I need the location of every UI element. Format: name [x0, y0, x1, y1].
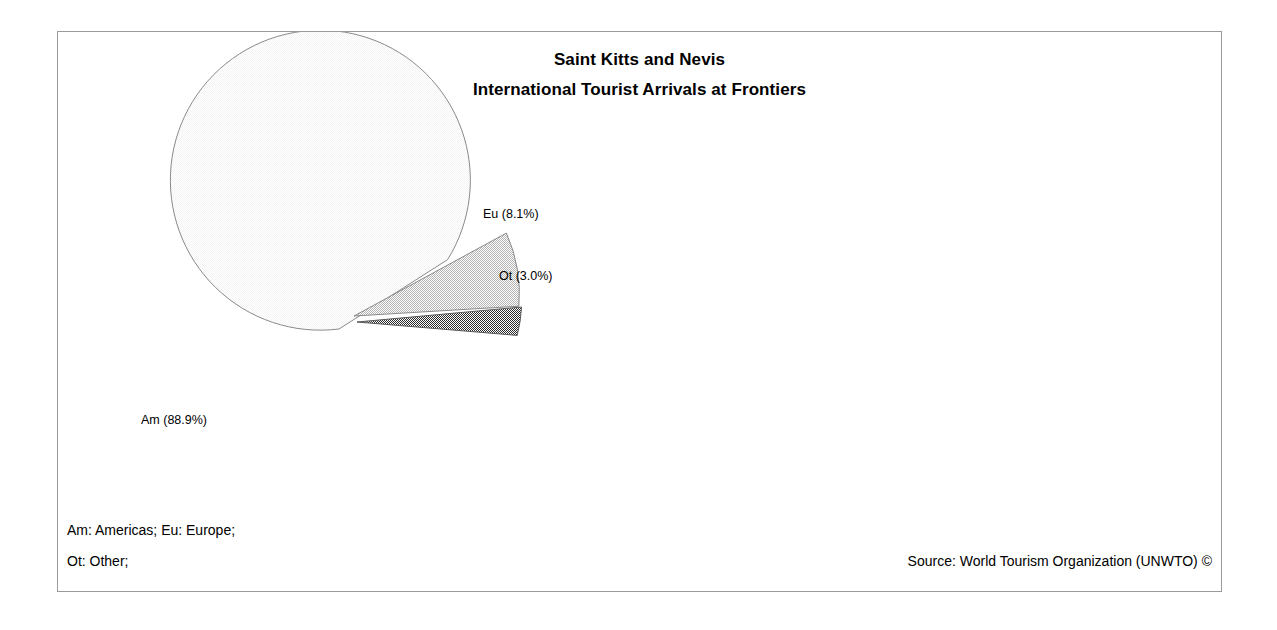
figure-footer: Am: Americas; Eu: Europe; Ot: Other; Sou…: [67, 522, 1212, 584]
legend-abbreviations-line-2: Ot: Other;: [67, 553, 128, 569]
pie-chart-svg: [58, 32, 1221, 502]
pie-label-ot: Ot (3.0%): [499, 269, 553, 283]
legend-abbreviations-line-1: Am: Americas; Eu: Europe;: [67, 522, 235, 538]
pie-label-am: Am (88.9%): [141, 413, 207, 427]
pie-chart: Eu (8.1%) Ot (3.0%) Am (88.9%): [58, 32, 1221, 502]
source-note: Source: World Tourism Organization (UNWT…: [908, 553, 1212, 569]
pie-label-eu: Eu (8.1%): [483, 207, 539, 221]
chart-figure-frame: Saint Kitts and Nevis International Tour…: [57, 31, 1222, 592]
